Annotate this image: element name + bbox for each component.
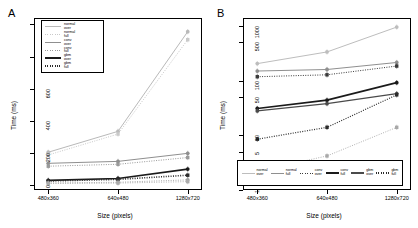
legend-entry: normalfull [271,169,297,177]
legend-label: convfull [341,169,349,177]
legend-label: gbmover [366,169,373,177]
legend-entry: normalover [242,169,268,177]
legend-label-line2: full [391,173,398,177]
legend-entry: normalfull [45,31,100,39]
x-tick-mark [188,190,189,194]
y-tick-mark [30,24,34,25]
legend-label-line2: over [315,173,323,177]
legend-swatch [271,173,284,174]
data-point-marker [395,93,398,96]
panel-b-plot-svg [209,0,418,228]
legend-label-line2: over [366,173,373,177]
y-tick-label: 100 [254,81,260,101]
legend-swatch [242,173,255,174]
x-tick-label: 480x360 [235,195,279,201]
x-tick-label: 640x480 [96,195,140,201]
data-point-marker [186,30,190,34]
data-point-marker [325,102,329,106]
y-tick-mark [239,152,243,153]
y-tick-mark [239,97,243,98]
data-point-marker [325,68,329,72]
legend-label: convover [315,169,323,177]
series-line [257,27,396,64]
panel-b-legend: normalovernormalfullconvoverconvfullgbmo… [237,160,403,186]
legend-label: gbmfull [391,169,398,177]
x-tick-label: 1280x720 [375,195,418,201]
legend-label: normalfull [286,169,297,177]
data-point-marker [116,163,119,166]
data-point-marker [325,50,329,54]
panel-a: A Time (ms) Size (pixels) 02004006008001… [0,0,209,228]
data-point-marker [325,154,328,157]
data-point-marker [395,126,398,129]
y-tick-mark [30,121,34,122]
y-tick-label: 10 [254,135,260,155]
data-point-marker [186,38,189,41]
data-point-marker [186,151,190,155]
x-tick-mark [327,190,328,194]
x-tick-label: 640x480 [305,195,349,201]
data-point-marker [255,69,259,73]
data-point-marker [395,64,398,67]
x-tick-mark [118,190,119,194]
data-point-marker [116,181,119,184]
x-tick-label: 1280x720 [166,195,210,201]
legend-label-line2: full [64,66,71,70]
y-tick-mark [239,26,243,27]
legend-label: normalover [257,169,268,177]
legend-entry: gbmfull [376,169,398,177]
y-tick-mark [239,135,243,136]
y-tick-mark [239,81,243,82]
data-point-marker [116,132,119,135]
data-point-marker [325,126,328,129]
x-tick-mark [48,190,49,194]
data-point-marker [325,73,328,76]
legend-entry: convover [45,39,100,47]
y-tick-label: 1000 [254,26,260,46]
panel-a-plot-svg [0,0,209,228]
legend-label-line2: full [341,173,349,177]
legend-label-line2: over [257,173,268,177]
data-point-marker [395,81,399,85]
legend-swatch [300,173,313,174]
legend-swatch [326,172,339,174]
data-point-marker [186,180,189,183]
figure-container: A Time (ms) Size (pixels) 02004006008001… [0,0,418,228]
legend-swatch [45,34,61,35]
panel-a-legend: normalovernormalfullconvoverconvfullgbmo… [41,20,104,73]
legend-entry: convover [300,169,323,177]
y-tick-mark [239,42,243,43]
x-tick-label: 480x360 [26,195,70,201]
y-tick-mark [30,89,34,90]
x-tick-mark [397,190,398,194]
legend-swatch [45,65,61,67]
legend-label: gbmfull [64,62,71,70]
y-tick-label: 200 [45,153,51,173]
legend-label-line2: full [286,173,297,177]
y-tick-mark [239,190,243,191]
legend-swatch [45,42,61,43]
legend-swatch [45,26,61,27]
data-point-marker [186,174,189,177]
y-tick-label: 600 [45,89,51,109]
data-point-marker [256,75,259,78]
data-point-marker [186,167,190,171]
legend-swatch [351,172,364,173]
legend-entry: gbmover [351,169,373,177]
legend-swatch [45,57,61,59]
legend-swatch [45,50,61,51]
y-tick-label: 400 [45,121,51,141]
legend-entry: convfull [45,47,100,55]
y-tick-mark [30,153,34,154]
legend-swatch [376,172,389,173]
data-point-marker [186,156,189,159]
data-point-marker [395,25,399,29]
x-tick-mark [257,190,258,194]
y-tick-mark [30,185,34,186]
legend-entry: gbmover [45,54,100,62]
y-tick-mark [30,57,34,58]
panel-b: B Time (ms) Size (pixels) 15105010050010… [209,0,418,228]
data-point-marker [255,62,259,66]
legend-entry: gbmfull [45,62,100,70]
legend-entry: convfull [326,169,349,177]
